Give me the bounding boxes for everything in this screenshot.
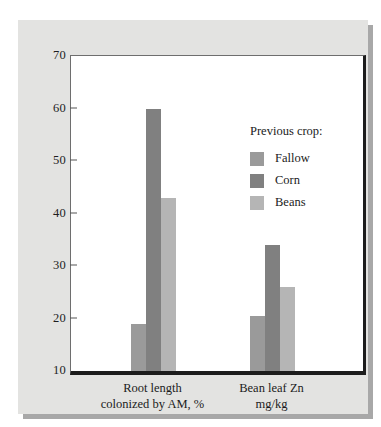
plot-area bbox=[70, 55, 366, 375]
y-tick-label: 60 bbox=[53, 100, 66, 115]
y-tick-label: 10 bbox=[53, 363, 66, 378]
x-group-label: Bean leaf Zn mg/kg bbox=[182, 381, 362, 412]
legend-label: Beans bbox=[275, 195, 306, 210]
bar bbox=[265, 245, 280, 371]
y-tick-label: 20 bbox=[53, 310, 66, 325]
legend-items: FallowCornBeans bbox=[250, 148, 323, 213]
figure-container: 70605040302010 Root length colonized by … bbox=[0, 0, 381, 427]
y-tick-mark bbox=[70, 160, 77, 161]
y-tick-label: 50 bbox=[53, 153, 66, 168]
legend-swatch-icon bbox=[250, 174, 264, 188]
legend: Previous crop: FallowCornBeans bbox=[250, 124, 323, 214]
bar bbox=[250, 316, 265, 371]
legend-item: Corn bbox=[250, 170, 323, 191]
y-tick-mark bbox=[70, 317, 77, 318]
y-tick-mark bbox=[70, 107, 77, 108]
legend-label: Fallow bbox=[275, 151, 310, 166]
chart-panel: 70605040302010 Root length colonized by … bbox=[18, 20, 368, 414]
legend-item: Fallow bbox=[250, 148, 323, 169]
y-tick-label: 40 bbox=[53, 205, 66, 220]
legend-swatch-icon bbox=[250, 196, 264, 210]
legend-title: Previous crop: bbox=[250, 124, 323, 139]
legend-label: Corn bbox=[275, 173, 300, 188]
y-tick-mark bbox=[70, 212, 77, 213]
bar bbox=[131, 324, 146, 371]
bar bbox=[146, 109, 161, 372]
bar bbox=[280, 287, 295, 371]
legend-item: Beans bbox=[250, 192, 323, 213]
y-tick-label: 70 bbox=[53, 48, 66, 63]
y-tick-mark bbox=[70, 265, 77, 266]
bar bbox=[161, 198, 176, 371]
y-axis: 70605040302010 bbox=[38, 55, 66, 371]
legend-swatch-icon bbox=[250, 152, 264, 166]
y-tick-label: 30 bbox=[53, 258, 66, 273]
